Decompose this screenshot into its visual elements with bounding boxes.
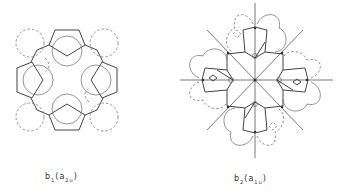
b2-lobe-top	[257, 15, 286, 52]
b2-node-dot	[254, 131, 257, 134]
b2-dashed-lobe-bottom	[257, 108, 284, 145]
diagram-canvas	[0, 0, 338, 193]
b2-node-dot	[306, 79, 309, 82]
b2-dashed-lobe-top	[226, 15, 253, 52]
b1-label-paren-close: )	[74, 172, 78, 181]
b1-dashed-lobe-bl	[16, 103, 44, 131]
b2-node-dot	[281, 106, 284, 109]
b1-label-sym-sub: 2u	[65, 177, 73, 183]
b2-label-sym-sub: 1u	[254, 179, 262, 185]
b1-lobe-right	[81, 65, 111, 95]
b2-node-dot	[227, 52, 230, 55]
b2-node-dot	[202, 79, 205, 82]
b2-dashed-lobe-right	[283, 51, 320, 78]
b2-diamond	[233, 30, 241, 38]
panel-b2-label: b2(a1u)	[234, 174, 267, 185]
b2-dashed-lobe-left	[190, 82, 227, 109]
b1-dashed-inner-arc	[45, 58, 49, 72]
b1-dashed-lobe-tr	[90, 29, 118, 57]
b2-node-dot	[254, 27, 257, 30]
b1-lobe-top	[52, 36, 82, 66]
b2-center-dot	[254, 79, 257, 82]
b1-lobe-bottom	[52, 94, 82, 124]
b1-dashed-inner-arc	[85, 88, 89, 102]
panel-b1-label: b1(a2u)	[45, 172, 78, 183]
panel-b2-diagram	[180, 3, 333, 158]
b1-dashed-lobe-tl	[16, 29, 44, 57]
b2-lobe-left	[190, 49, 227, 78]
panel-b1-diagram	[16, 29, 118, 131]
b2-label-paren-close: )	[263, 174, 267, 183]
b2-node-dot	[227, 106, 230, 109]
b2-diamond	[269, 122, 277, 130]
b2-lobe-bottom	[224, 108, 253, 145]
b2-node-dot	[281, 52, 284, 55]
b1-lobe-left	[23, 65, 53, 95]
b1-dashed-lobe-br	[90, 103, 118, 131]
b2-lobe-right	[283, 82, 320, 111]
